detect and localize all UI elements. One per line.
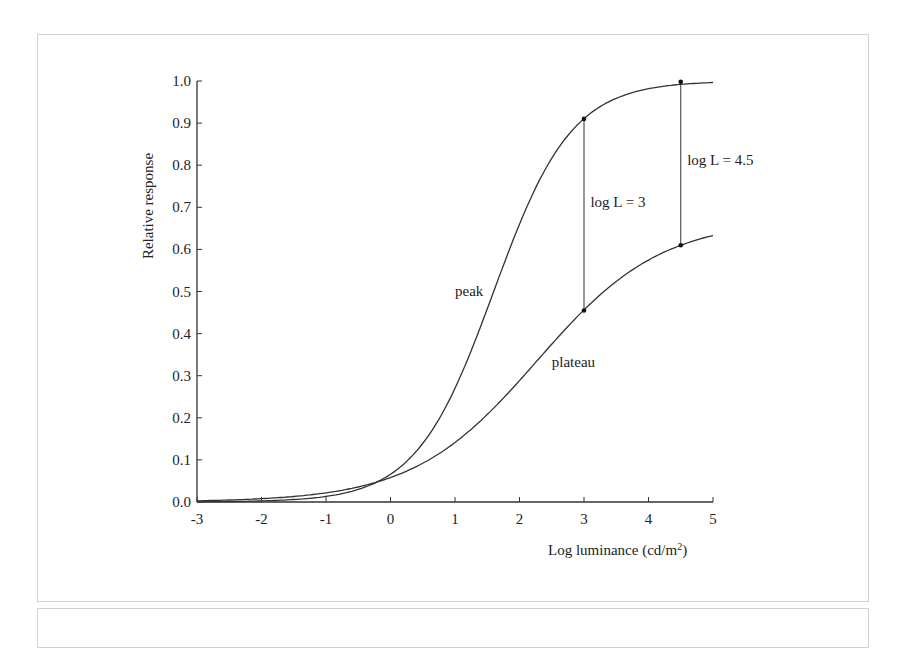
y-tick-label: 0.3 bbox=[172, 368, 191, 384]
y-tick-label: 0.8 bbox=[172, 157, 191, 173]
x-tick-label: -3 bbox=[191, 511, 204, 527]
axes: 0.00.10.20.30.40.50.60.70.80.91.0-3-2-10… bbox=[172, 73, 717, 527]
y-tick-label: 0.9 bbox=[172, 115, 191, 131]
x-tick-label: 5 bbox=[709, 511, 717, 527]
annotation-label: peak bbox=[455, 283, 484, 299]
curve-plateau bbox=[197, 236, 713, 501]
y-tick-label: 0.7 bbox=[172, 199, 191, 215]
y-tick-label: 0.0 bbox=[172, 494, 191, 510]
y-tick-label: 0.6 bbox=[172, 241, 191, 257]
x-tick-label: 2 bbox=[516, 511, 524, 527]
x-tick-label: -2 bbox=[255, 511, 268, 527]
y-tick-label: 0.2 bbox=[172, 410, 191, 426]
y-tick-label: 1.0 bbox=[172, 73, 191, 89]
x-tick-label: 3 bbox=[580, 511, 588, 527]
x-tick-label: 0 bbox=[387, 511, 395, 527]
marker-dot bbox=[678, 80, 683, 85]
x-axis-title-main: Log luminance (cd/m bbox=[548, 542, 677, 559]
y-axis-title: Relative response bbox=[140, 153, 156, 260]
marker-dot bbox=[582, 308, 587, 313]
annotation-label: log L = 4.5 bbox=[687, 152, 753, 168]
x-axis-title-close: ) bbox=[682, 542, 687, 559]
y-tick-label: 0.5 bbox=[172, 284, 191, 300]
x-tick-label: -1 bbox=[320, 511, 333, 527]
marker-dot bbox=[582, 117, 587, 122]
x-tick-label: 4 bbox=[645, 511, 653, 527]
x-tick-label: 1 bbox=[451, 511, 459, 527]
y-tick-label: 0.4 bbox=[172, 326, 191, 342]
annotations: peakplateaulog L = 3log L = 4.5 bbox=[455, 80, 753, 371]
x-axis-title: Log luminance (cd/m2) bbox=[548, 541, 687, 559]
y-tick-label: 0.1 bbox=[172, 452, 191, 468]
annotation-label: log L = 3 bbox=[590, 194, 645, 210]
annotation-label: plateau bbox=[552, 354, 596, 370]
marker-dot bbox=[678, 243, 683, 248]
